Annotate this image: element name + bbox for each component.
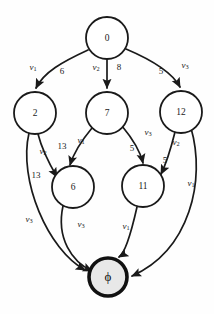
graph-node-11-label: 11 bbox=[138, 181, 147, 191]
edge-6-phi bbox=[61, 206, 92, 271]
graph-node-11[interactable]: 11 bbox=[122, 165, 164, 207]
edge-label-v1-eleven-phi: v1 bbox=[122, 221, 129, 232]
edge-label-v1-seven-six: v1 bbox=[77, 135, 84, 146]
edge-label-v3-zero-twelve: v3 bbox=[181, 60, 188, 71]
graph-node-12-label: 12 bbox=[176, 107, 186, 117]
graph-node-12[interactable]: 12 bbox=[160, 91, 202, 133]
edge-11-phi bbox=[119, 207, 137, 257]
edge-label-v3-seven-eleven: v3 bbox=[144, 127, 151, 138]
graph-node-2-label: 2 bbox=[33, 108, 38, 118]
graph-node-0-label: 0 bbox=[105, 33, 110, 43]
edges-layer bbox=[27, 49, 197, 276]
edge-label-weight-8: 8 bbox=[117, 62, 122, 72]
edge-label-v1-twelve-phi: v1 bbox=[187, 178, 194, 189]
edge-0-12 bbox=[126, 49, 180, 87]
edge-label-weight-6: 6 bbox=[60, 66, 65, 76]
edge-label-v2-two-six: v2 bbox=[39, 146, 46, 157]
edge-label-weight-5-a: 5 bbox=[159, 66, 164, 76]
edge-label-weight-5-c: 5 bbox=[163, 155, 168, 165]
edge-label-v3-six-phi: v3 bbox=[77, 219, 84, 230]
graph-node-phi[interactable]: ϕ bbox=[89, 258, 127, 296]
edge-label-weight-13-a: 13 bbox=[32, 170, 42, 180]
edge-labels-layer: v1 6 v2 8 5 v3 v2 13 13 v1 5 v3 v2 5 v1 … bbox=[25, 60, 194, 232]
graph-canvas: 0 2 7 12 6 11 bbox=[0, 0, 214, 314]
graph-node-phi-label: ϕ bbox=[105, 269, 112, 284]
graph-node-6[interactable]: 6 bbox=[52, 166, 94, 208]
edge-7-6 bbox=[70, 128, 92, 165]
graph-node-6-label: 6 bbox=[71, 182, 76, 192]
edge-label-weight-5-b: 5 bbox=[130, 143, 135, 153]
graph-node-2[interactable]: 2 bbox=[14, 92, 56, 134]
graph-diagram: 0 2 7 12 6 11 bbox=[0, 0, 214, 314]
edge-label-weight-13-b: 13 bbox=[58, 141, 68, 151]
graph-node-0[interactable]: 0 bbox=[86, 17, 128, 59]
nodes-layer: 0 2 7 12 6 11 bbox=[14, 17, 202, 296]
edge-label-v2-twelve-eleven: v2 bbox=[172, 137, 179, 148]
edge-label-v3-two-phi: v3 bbox=[25, 214, 32, 225]
edge-label-v1-zero-two: v1 bbox=[29, 62, 36, 73]
graph-node-7-label: 7 bbox=[105, 108, 110, 118]
edge-label-v2-zero-seven: v2 bbox=[92, 62, 99, 73]
graph-node-7[interactable]: 7 bbox=[86, 92, 128, 134]
